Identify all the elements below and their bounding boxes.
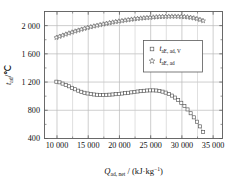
y-tick-label: 800: [28, 106, 40, 115]
data-point-square: [124, 92, 127, 95]
y-tick-label: 2 000: [22, 22, 40, 31]
data-point-square: [108, 93, 111, 96]
x-tick-label: 10 000: [46, 141, 69, 150]
data-point-square: [58, 81, 61, 84]
data-point-square: [195, 120, 198, 123]
data-point-square: [74, 88, 77, 91]
series-2: [54, 14, 206, 40]
data-point-square: [70, 86, 73, 89]
data-point-square: [161, 90, 164, 93]
data-point-square: [130, 91, 133, 94]
data-layer: [54, 14, 206, 134]
data-point-square: [136, 90, 139, 93]
data-point-square: [164, 91, 167, 94]
data-point-square: [189, 112, 192, 115]
data-point-square: [192, 116, 195, 119]
data-point-square: [170, 94, 173, 97]
chart-figure: 10 00015 00020 00025 00030 00035 0004008…: [0, 0, 239, 180]
data-point-square: [167, 92, 170, 95]
data-point-square: [99, 93, 102, 96]
x-axis-title: Qad, net / (kJ·kg−1): [104, 166, 163, 177]
data-point-square: [67, 85, 70, 88]
data-point-square: [102, 93, 105, 96]
data-point-square: [202, 130, 205, 133]
x-tick-label: 35 000: [202, 141, 225, 150]
data-point-square: [117, 92, 120, 95]
data-point-square: [198, 125, 201, 128]
data-point-square: [55, 80, 58, 83]
data-point-square: [64, 83, 67, 86]
y-axis-title: tad/℃: [3, 65, 14, 85]
legend: taE, ad, VtaE, ad: [144, 41, 203, 73]
data-point-square: [139, 90, 142, 93]
data-point-square: [152, 89, 155, 92]
x-tick-label: 20 000: [108, 141, 131, 150]
plot-frame: [45, 12, 223, 139]
data-point-square: [127, 91, 130, 94]
data-point-square: [145, 89, 148, 92]
x-tick-label: 25 000: [139, 141, 162, 150]
y-tick-label: 1 200: [22, 78, 40, 87]
data-point-square: [95, 93, 98, 96]
y-tick-label: 1 600: [22, 50, 40, 59]
data-point-square: [120, 92, 123, 95]
data-point-square: [149, 89, 152, 92]
legend-box: [144, 41, 203, 73]
y-tick-label: 400: [28, 134, 40, 143]
data-point-square: [83, 91, 86, 94]
grid-lines: [45, 12, 223, 139]
data-point-square: [150, 47, 154, 51]
chart-svg: 10 00015 00020 00025 00030 00035 0004008…: [0, 0, 239, 180]
data-point-square: [77, 89, 80, 92]
data-point-square: [173, 96, 176, 99]
axes-layer: [45, 12, 223, 139]
data-point-square: [89, 93, 92, 96]
data-point-square: [80, 90, 83, 93]
data-point-square: [61, 82, 64, 85]
data-point-square: [92, 93, 95, 96]
data-point-square: [158, 89, 161, 92]
data-point-square: [155, 89, 158, 92]
data-point-square: [86, 92, 89, 95]
data-point-square: [180, 101, 183, 104]
data-point-square: [105, 93, 108, 96]
data-point-square: [142, 89, 145, 92]
data-point-square: [186, 108, 189, 111]
data-point-square: [111, 93, 114, 96]
data-point-square: [133, 90, 136, 93]
x-tick-label: 30 000: [171, 141, 194, 150]
x-tick-label: 15 000: [77, 141, 100, 150]
data-point-square: [177, 98, 180, 101]
data-point-square: [183, 104, 186, 107]
data-point-square: [114, 93, 117, 96]
